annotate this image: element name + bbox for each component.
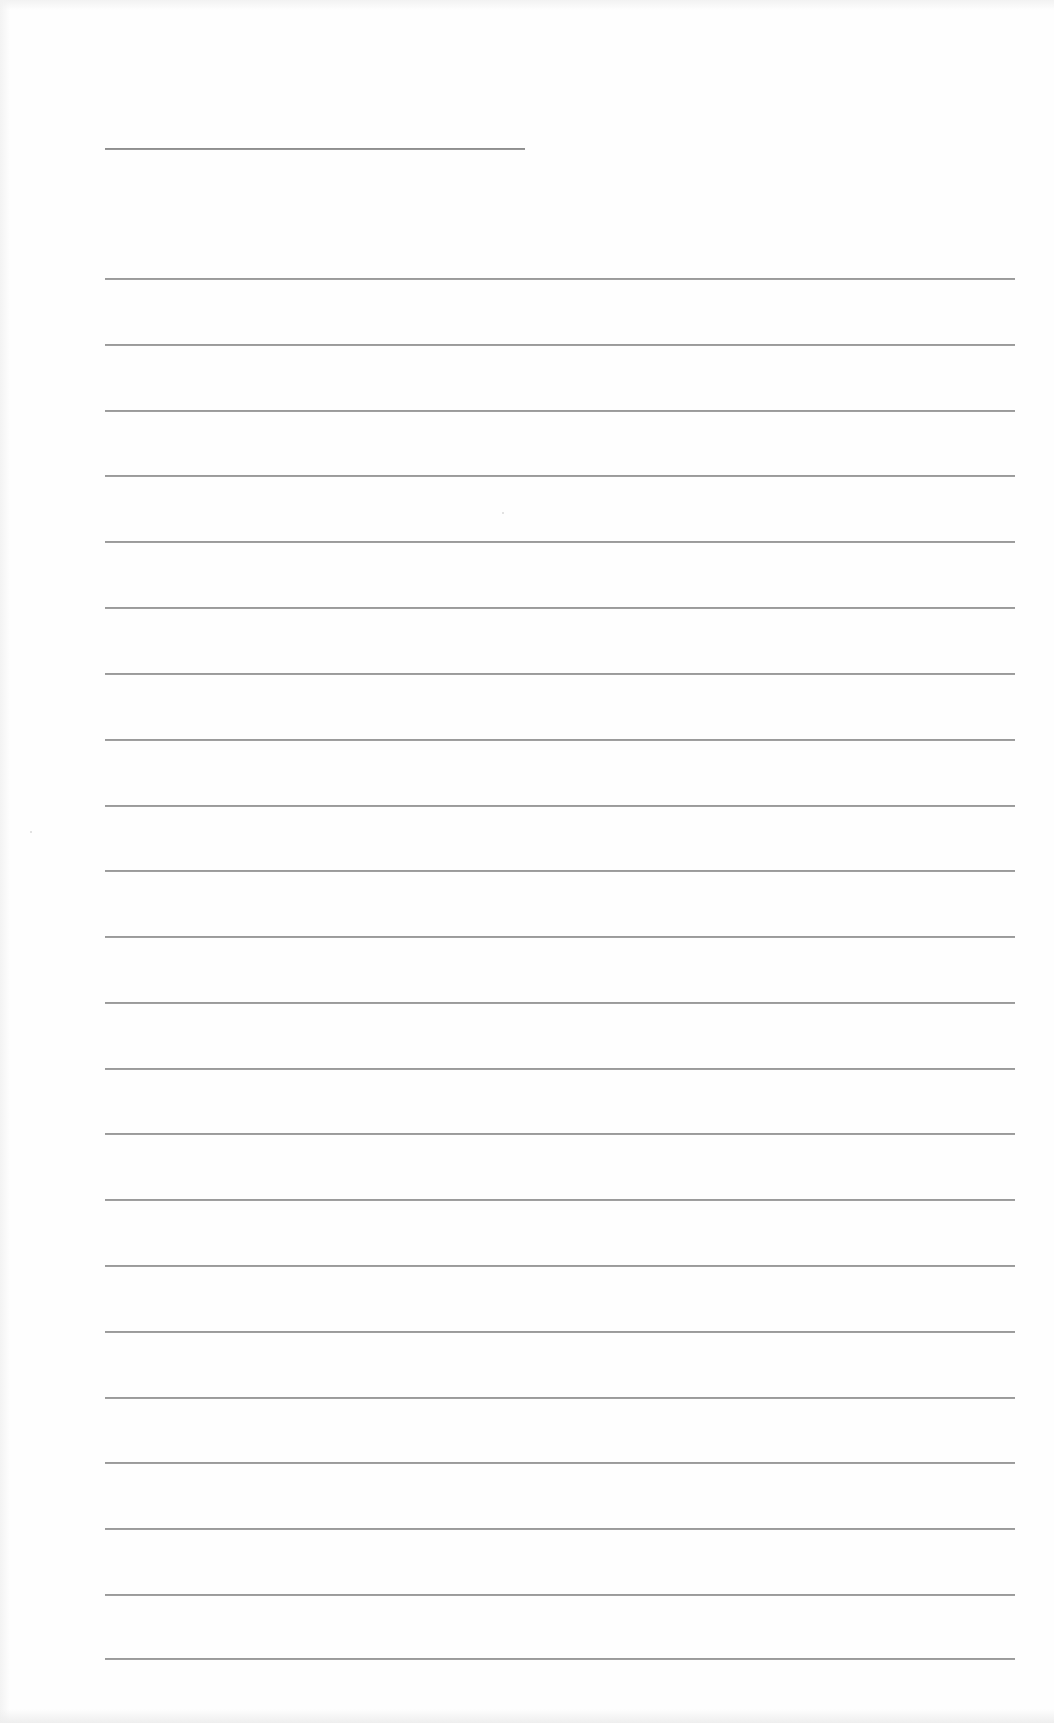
ruled-line: [105, 673, 1015, 675]
ruled-line: [105, 1002, 1015, 1004]
ruled-line: [105, 475, 1015, 477]
ruled-line: [105, 1594, 1015, 1596]
ruled-line: [105, 1397, 1015, 1399]
scan-speck: [30, 831, 32, 833]
ruled-line: [105, 1331, 1015, 1333]
scan-speck: [502, 512, 504, 514]
ruled-line: [105, 607, 1015, 609]
ruled-line: [105, 344, 1015, 346]
ruled-line: [105, 1658, 1015, 1660]
scan-edge-shadow: [0, 0, 10, 1723]
scan-bleed-top: [0, 0, 1054, 10]
ruled-line: [105, 1528, 1015, 1530]
ruled-line: [105, 410, 1015, 412]
title-line: [105, 148, 525, 150]
ruled-line: [105, 870, 1015, 872]
ruled-line: [105, 739, 1015, 741]
document-page: [0, 0, 1054, 1723]
scan-bleed-bottom: [0, 1709, 1054, 1723]
ruled-line: [105, 1199, 1015, 1201]
ruled-line: [105, 1462, 1015, 1464]
ruled-line: [105, 541, 1015, 543]
ruled-line: [105, 936, 1015, 938]
ruled-line: [105, 805, 1015, 807]
ruled-line: [105, 278, 1015, 280]
ruled-line: [105, 1068, 1015, 1070]
ruled-line: [105, 1133, 1015, 1135]
ruled-line: [105, 1265, 1015, 1267]
